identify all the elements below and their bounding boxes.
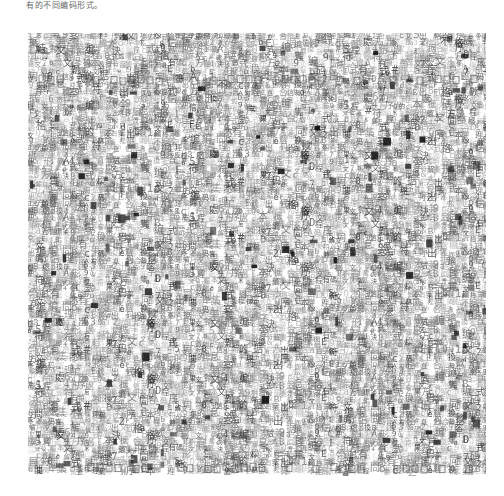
glyph-noise-canvas <box>28 33 486 476</box>
encoding-noise-figure <box>28 33 486 476</box>
caption-text: 有的不同编码形式。 <box>26 1 103 11</box>
